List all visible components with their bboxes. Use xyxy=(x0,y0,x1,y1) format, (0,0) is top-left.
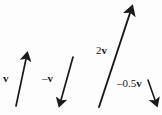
vector-label-v: v xyxy=(3,73,9,84)
vector-arrow-neg-v xyxy=(61,57,73,100)
vector-scalar-multiple-figure: v –v 2v –0.5v xyxy=(0,0,162,115)
vector-arrow-2v xyxy=(99,13,130,107)
vector-label-2v: 2v xyxy=(96,45,107,56)
vector-diagram-canvas xyxy=(0,0,162,115)
vector-label-neg-half-v-symbol: v xyxy=(136,77,142,89)
vector-label-neg-v-symbol: v xyxy=(48,72,54,84)
vector-label-v-symbol: v xyxy=(3,72,9,84)
vector-label-neg-half-v-scalar: –0.5 xyxy=(117,77,136,89)
vector-label-2v-symbol: v xyxy=(102,44,108,56)
vector-label-neg-half-v: –0.5v xyxy=(117,78,142,89)
vector-arrow-neg-half-v xyxy=(148,80,155,100)
vector-arrow-v xyxy=(16,59,26,106)
vector-label-neg-v: –v xyxy=(42,73,53,84)
